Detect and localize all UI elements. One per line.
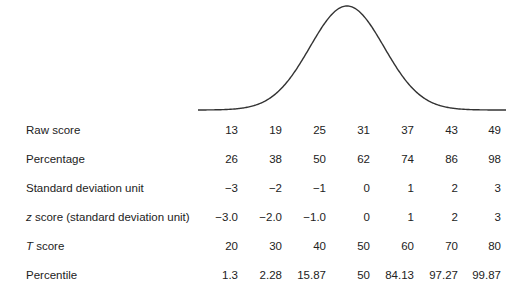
table-cell: 3 — [461, 182, 501, 194]
table-cell: 50 — [330, 269, 370, 281]
table-cell: 86 — [418, 153, 458, 165]
table-cell: 40 — [286, 240, 326, 252]
table-row: T score20304050607080 — [0, 240, 531, 256]
row-label: Raw score — [26, 124, 80, 136]
table-cell: 50 — [286, 153, 326, 165]
table-row: Percentile1.32.2815.875084.1397.2799.87 — [0, 269, 531, 285]
table-cell: 2.28 — [242, 269, 282, 281]
table-cell: 0 — [330, 211, 370, 223]
table-cell: −3.0 — [198, 211, 238, 223]
table-cell: 38 — [242, 153, 282, 165]
table-cell: 70 — [418, 240, 458, 252]
table-cell: 97.27 — [418, 269, 458, 281]
normal-distribution-curve — [0, 0, 531, 120]
row-label: T score — [26, 240, 64, 252]
row-label-text: score (standard deviation unit) — [32, 211, 190, 223]
table-cell: 3 — [461, 211, 501, 223]
table-cell: 0 — [330, 182, 370, 194]
table-cell: 30 — [242, 240, 282, 252]
bell-curve-path — [198, 6, 506, 110]
row-label-symbol: T — [26, 240, 33, 252]
table-cell: 20 — [198, 240, 238, 252]
table-cell: 84.13 — [374, 269, 414, 281]
table-cell: 2 — [418, 182, 458, 194]
row-label: z score (standard deviation unit) — [26, 211, 190, 223]
table-cell: 62 — [330, 153, 370, 165]
table-cell: 26 — [198, 153, 238, 165]
table-cell: −3 — [198, 182, 238, 194]
row-label-text: score — [33, 240, 64, 252]
table-cell: 1 — [374, 211, 414, 223]
table-cell: 13 — [198, 124, 238, 136]
table-row: Standard deviation unit−3−2−10123 — [0, 182, 531, 198]
table-cell: 2 — [418, 211, 458, 223]
table-cell: 49 — [461, 124, 501, 136]
table-cell: 1 — [374, 182, 414, 194]
table-cell: 50 — [330, 240, 370, 252]
table-cell: 31 — [330, 124, 370, 136]
table-cell: 15.87 — [286, 269, 326, 281]
table-cell: −1.0 — [286, 211, 326, 223]
row-label: Percentage — [26, 153, 85, 165]
table-cell: −2.0 — [242, 211, 282, 223]
table-row: z score (standard deviation unit)−3.0−2.… — [0, 211, 531, 227]
table-cell: 37 — [374, 124, 414, 136]
table-cell: 43 — [418, 124, 458, 136]
table-cell: 80 — [461, 240, 501, 252]
table-row: Percentage26385062748698 — [0, 153, 531, 169]
table-cell: 25 — [286, 124, 326, 136]
table-cell: −2 — [242, 182, 282, 194]
table-cell: 19 — [242, 124, 282, 136]
row-label: Standard deviation unit — [26, 182, 144, 194]
table-cell: −1 — [286, 182, 326, 194]
table-row: Raw score13192531374349 — [0, 124, 531, 140]
row-label: Percentile — [26, 269, 77, 281]
table-cell: 74 — [374, 153, 414, 165]
table-cell: 98 — [461, 153, 501, 165]
table-cell: 60 — [374, 240, 414, 252]
table-cell: 99.87 — [461, 269, 501, 281]
table-cell: 1.3 — [198, 269, 238, 281]
